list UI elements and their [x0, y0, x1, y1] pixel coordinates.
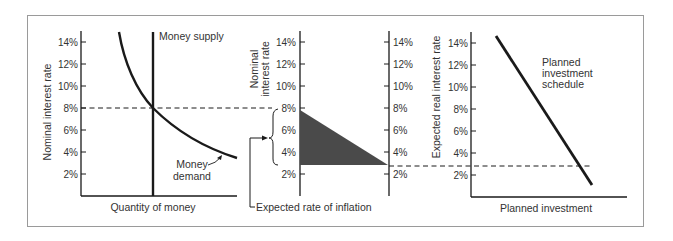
interest-rate-diagram: 14% 12% 10% 8% 6% 4% 2% Nominal interest… — [0, 0, 673, 241]
brace-icon — [269, 109, 278, 165]
panel-money-market: 14% 12% 10% 8% 6% 4% 2% Nominal interest… — [41, 30, 237, 213]
tick-label: 8% — [282, 103, 297, 114]
tick-label: 10% — [58, 81, 78, 92]
tick-label: 10% — [448, 82, 468, 93]
arrowhead-icon — [262, 136, 268, 141]
tick-label: 12% — [448, 60, 468, 71]
money-demand-label: demand — [173, 170, 211, 182]
panel-fisher-bridge: 14% 12% 10% 8% 6% 4% 2% 14% 12% 10% 8% 6… — [248, 31, 413, 213]
y-axis-title: Nominal interest rate — [41, 63, 53, 160]
right-ticks — [384, 42, 389, 174]
money-supply-label: Money supply — [159, 30, 225, 42]
tick-label: 2% — [64, 169, 79, 180]
tick-label: 6% — [454, 126, 469, 137]
tick-label: 14% — [393, 37, 413, 48]
tick-label: 12% — [393, 59, 413, 70]
tick-label: 4% — [282, 147, 297, 158]
right-tick-labels: 14% 12% 10% 8% 6% 4% 2% — [393, 37, 413, 180]
investment-schedule-label: schedule — [542, 78, 584, 90]
y-axis-title: Expected real interest rate — [430, 36, 442, 159]
arrowhead-icon — [217, 155, 222, 160]
tick-label: 8% — [64, 103, 79, 114]
tick-label: 4% — [64, 147, 79, 158]
tick-label: 10% — [393, 81, 413, 92]
x-axis-title: Quantity of money — [110, 201, 196, 213]
tick-label: 2% — [282, 169, 297, 180]
tick-label: 2% — [393, 169, 408, 180]
y-axis-title: interest rate — [259, 41, 271, 97]
tick-label: 6% — [393, 125, 408, 136]
left-tick-labels: 14% 12% 10% 8% 6% 4% 2% — [276, 37, 296, 180]
y-ticks — [471, 43, 476, 175]
tick-label: 12% — [276, 59, 296, 70]
tick-label: 10% — [276, 81, 296, 92]
tick-label: 14% — [276, 37, 296, 48]
money-demand-curve — [119, 32, 237, 158]
x-axis-title: Planned investment — [500, 202, 592, 214]
tick-label: 8% — [454, 104, 469, 115]
tick-label: 2% — [454, 170, 469, 181]
demand-pointer-arrow — [208, 158, 220, 165]
tick-label: 4% — [393, 147, 408, 158]
tick-label: 14% — [448, 38, 468, 49]
tick-label: 6% — [282, 125, 297, 136]
tick-label: 8% — [393, 103, 408, 114]
money-demand-label: Money — [176, 158, 208, 170]
tick-label: 14% — [58, 37, 78, 48]
expected-inflation-label: Expected rate of inflation — [256, 201, 372, 213]
inflation-pointer-line — [250, 138, 265, 207]
panel-investment: 14% 12% 10% 8% 6% 4% 2% Expected real in… — [430, 32, 627, 214]
tick-label: 4% — [454, 148, 469, 159]
tick-label: 6% — [64, 125, 79, 136]
tick-label: 12% — [58, 59, 78, 70]
inflation-wedge — [300, 110, 388, 165]
y-tick-labels: 14% 12% 10% 8% 6% 4% 2% — [448, 38, 468, 181]
y-tick-labels: 14% 12% 10% 8% 6% 4% 2% — [58, 37, 78, 180]
